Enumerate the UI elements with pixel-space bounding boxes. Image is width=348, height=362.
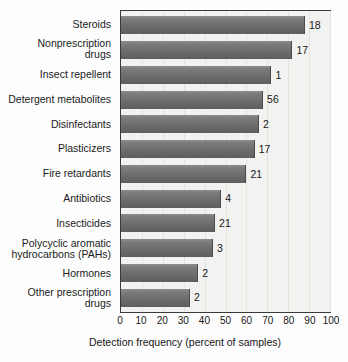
bar-row: 17 (121, 140, 330, 158)
bar-value-label: 56 (267, 94, 279, 105)
bar (121, 91, 263, 109)
category-label: Hormones (0, 265, 115, 283)
gridline (330, 11, 331, 312)
x-tick-label: 90 (304, 315, 315, 326)
bar-value-label: 1 (275, 70, 281, 81)
bar-value-label: 2 (202, 268, 208, 279)
x-tick-label: 0 (117, 315, 123, 326)
x-tick-label: 80 (283, 315, 294, 326)
category-label: Insect repellent (0, 65, 115, 83)
bar-row: 3 (121, 239, 330, 257)
bar (121, 165, 246, 183)
category-label: Plasticizers (0, 140, 115, 158)
category-label: Fire retardants (0, 165, 115, 183)
category-label: Nonprescriptiondrugs (0, 40, 115, 58)
x-axis-tick-labels: 0102030405060708090100 (120, 315, 331, 329)
x-tick-label: 60 (241, 315, 252, 326)
bar (121, 66, 271, 84)
bar (121, 41, 292, 59)
bar-value-label: 2 (194, 292, 200, 303)
x-tick-label: 10 (136, 315, 147, 326)
category-label: Polycyclic aromatichydrocarbons (PAHs) (0, 240, 115, 258)
bar-row: 1 (121, 66, 330, 84)
bar (121, 16, 305, 34)
bar-row: 18 (121, 16, 330, 34)
category-label: Antibiotics (0, 190, 115, 208)
x-tick-label: 40 (199, 315, 210, 326)
x-axis-title: Detection frequency (percent of samples) (0, 336, 348, 348)
bar-row: 21 (121, 214, 330, 232)
bar-chart: SteroidsNonprescriptiondrugsInsect repel… (0, 0, 348, 362)
bar-value-label: 4 (225, 193, 231, 204)
bar (121, 239, 213, 257)
bar-row: 17 (121, 41, 330, 59)
x-axis-title-text: Detection frequency (percent of samples) (89, 336, 281, 348)
plot-area: 181715621721421322 (120, 10, 331, 313)
x-tick-label: 70 (262, 315, 273, 326)
bar-row: 4 (121, 190, 330, 208)
x-tick-label: 30 (178, 315, 189, 326)
bar (121, 289, 190, 307)
bar-value-label: 18 (309, 20, 321, 31)
category-label: Insecticides (0, 215, 115, 233)
bar-row: 56 (121, 91, 330, 109)
category-label-column: SteroidsNonprescriptiondrugsInsect repel… (0, 10, 115, 313)
bar (121, 140, 255, 158)
bar-rows: 181715621721421322 (121, 11, 330, 312)
bar-value-label: 2 (263, 119, 269, 130)
category-label: Detergent metabolites (0, 90, 115, 108)
bar (121, 190, 221, 208)
bar-value-label: 17 (296, 45, 308, 56)
category-label: Disinfectants (0, 115, 115, 133)
bar-value-label: 21 (250, 169, 262, 180)
bar-row: 2 (121, 115, 330, 133)
bar-value-label: 17 (259, 144, 271, 155)
bar (121, 264, 198, 282)
bar-row: 2 (121, 264, 330, 282)
bar-value-label: 3 (217, 243, 223, 254)
x-tick-label: 50 (220, 315, 231, 326)
category-label: Steroids (0, 15, 115, 33)
category-label: Other prescriptiondrugs (0, 289, 115, 307)
x-tick-label: 100 (323, 315, 340, 326)
x-tick-label: 20 (157, 315, 168, 326)
bar (121, 214, 215, 232)
bar-value-label: 21 (219, 218, 231, 229)
bar-row: 21 (121, 165, 330, 183)
bar (121, 115, 259, 133)
bar-row: 2 (121, 289, 330, 307)
